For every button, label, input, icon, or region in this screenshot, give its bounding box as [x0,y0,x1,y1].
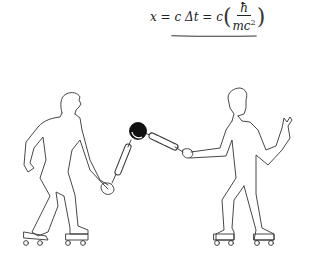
central-ball [130,123,147,140]
right-spring [145,133,183,152]
skaters-illustration [0,0,317,253]
left-skater-figure [24,93,114,246]
left-spring [112,140,131,183]
right-skater-figure [182,88,292,245]
